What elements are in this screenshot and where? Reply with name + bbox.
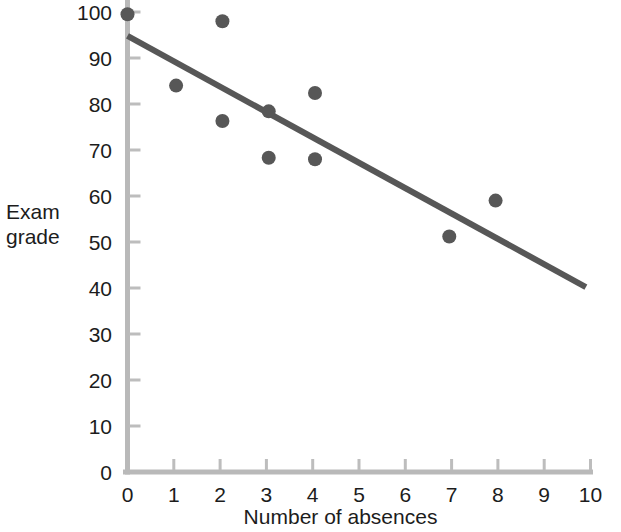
data-point xyxy=(308,86,322,100)
x-axis-tick-label: 4 xyxy=(307,484,319,505)
y-axis-tick-label: 20 xyxy=(60,370,112,391)
x-axis-tick-label: 7 xyxy=(446,484,458,505)
data-point xyxy=(169,79,183,93)
x-axis-tick-label: 3 xyxy=(261,484,273,505)
y-axis-tick-label: 70 xyxy=(60,140,112,161)
data-point xyxy=(262,104,276,118)
y-axis-title-line-1: Exam xyxy=(6,200,116,225)
data-point xyxy=(262,151,276,165)
y-axis-tick-label: 30 xyxy=(60,324,112,345)
y-axis-title: Exam grade xyxy=(6,200,116,250)
data-point xyxy=(215,14,229,28)
x-axis-title: Number of absences xyxy=(0,506,621,527)
x-axis-tick-label: 6 xyxy=(399,484,411,505)
data-point xyxy=(308,152,322,166)
x-axis-tick-label: 1 xyxy=(168,484,180,505)
y-axis-tick-label: 40 xyxy=(60,278,112,299)
x-axis-tick-label: 9 xyxy=(538,484,550,505)
y-axis-tick-label: 90 xyxy=(60,48,112,69)
y-axis-tick-label: 0 xyxy=(60,462,112,483)
x-axis-tick-label: 0 xyxy=(122,484,134,505)
y-axis-tick-label: 100 xyxy=(60,2,112,23)
y-axis-tick-label: 80 xyxy=(60,94,112,115)
x-axis-title-text: Number of absences xyxy=(244,506,438,527)
trend-line xyxy=(128,36,586,287)
data-point xyxy=(489,194,503,208)
scatter-plot-figure: 0102030405060708090100 012345678910 Exam… xyxy=(0,0,621,532)
x-axis-tick-label: 8 xyxy=(492,484,504,505)
x-axis-tick-label: 2 xyxy=(214,484,226,505)
trend-line-segment xyxy=(128,36,586,287)
x-axis-tick-label: 10 xyxy=(579,484,602,505)
y-axis-title-line-2: grade xyxy=(6,225,116,250)
axis-ticks xyxy=(130,12,591,470)
data-point xyxy=(121,7,135,21)
x-axis-tick-label: 5 xyxy=(353,484,365,505)
data-point xyxy=(442,229,456,243)
data-point xyxy=(215,114,229,128)
plot-canvas xyxy=(0,0,621,532)
y-axis-tick-label: 10 xyxy=(60,416,112,437)
